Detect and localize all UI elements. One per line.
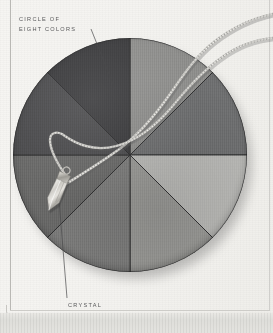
leader-lines <box>0 0 273 333</box>
leader-line-circle <box>91 29 115 89</box>
caption-circle-line1: CIRCLE OF <box>19 15 76 25</box>
leader-line-crystal <box>59 200 67 298</box>
caption-crystal-line1: CRYSTAL <box>68 301 109 311</box>
caption-circle-of-eight-colors: CIRCLE OF EIGHT COLORS <box>19 15 76 34</box>
caption-circle-line2: EIGHT COLORS <box>19 25 76 35</box>
scan-edge-texture <box>0 313 273 333</box>
